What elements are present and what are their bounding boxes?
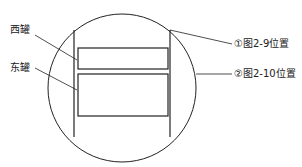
east-tank-rect [78,74,168,116]
position-1-label: ①图2-9位置 [234,38,289,50]
position-2-label: ②图2-10位置 [234,68,296,80]
west-tank-rect [78,48,168,69]
east-tank-label: 东罐 [10,62,30,74]
west-tank-label: 西罐 [10,24,30,36]
west-tank-leader [35,35,77,60]
east-tank-leader [35,68,77,90]
magnified-view-circle [48,14,196,162]
tank-position-diagram [0,0,302,167]
